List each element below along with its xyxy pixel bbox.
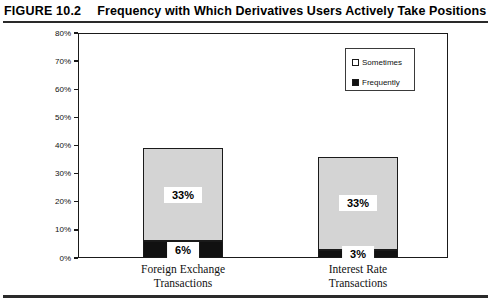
y-axis-tick: 40% xyxy=(0,140,78,152)
y-axis-tick: 20% xyxy=(0,196,78,208)
y-axis-tick: 50% xyxy=(0,111,78,123)
y-axis-tick: 10% xyxy=(0,224,78,236)
chart-area: 0%10%20%30%40%50%60%70%80% 33%6%33%3% So… xyxy=(0,24,491,292)
bar-segment-sometimes[interactable]: 33% xyxy=(318,157,398,250)
caption-divider-rule xyxy=(3,21,488,23)
figure-caption: FIGURE 10.2 Frequency with Which Derivat… xyxy=(4,2,487,19)
x-axis-category-label: Interest RateTransactions xyxy=(278,262,438,290)
y-axis-tick-label: 20% xyxy=(55,197,74,206)
bar-segment-sometimes[interactable]: 33% xyxy=(143,148,223,241)
y-axis-tick: 70% xyxy=(0,55,78,67)
y-axis-tick-label: 50% xyxy=(55,113,74,122)
y-axis-tick-label: 0% xyxy=(59,254,74,263)
y-axis-tick-label: 70% xyxy=(55,57,74,66)
y-axis-tick-label: 30% xyxy=(55,169,74,178)
bar-segment-frequently[interactable]: 3% xyxy=(318,250,398,258)
chart-legend: Sometimes Frequently xyxy=(345,48,415,91)
x-axis-category-label-line: Transactions xyxy=(278,276,438,290)
legend-item-frequently[interactable]: Frequently xyxy=(352,75,414,89)
legend-item-sometimes[interactable]: Sometimes xyxy=(352,55,414,69)
legend-label-sometimes: Sometimes xyxy=(362,58,402,67)
filled-square-icon xyxy=(352,79,359,86)
x-axis-category-label-line: Transactions xyxy=(103,276,263,290)
bar-group[interactable]: 33%3% xyxy=(318,157,398,258)
y-axis-tick: 60% xyxy=(0,83,78,95)
bar-group[interactable]: 33%6% xyxy=(143,148,223,258)
bar-value-label-frequently: 6% xyxy=(167,242,199,258)
figure-number: FIGURE 10.2 xyxy=(4,4,81,18)
figure-bottom-rule xyxy=(3,295,488,298)
figure-title: Frequency with Which Derivatives Users A… xyxy=(97,4,486,18)
y-axis-tick-label: 80% xyxy=(55,29,74,38)
hollow-square-icon xyxy=(352,59,359,66)
bar-segment-frequently[interactable]: 6% xyxy=(143,241,223,258)
legend-label-frequently: Frequently xyxy=(362,78,400,87)
y-axis-tick: 30% xyxy=(0,168,78,180)
bar-value-label-sometimes: 33% xyxy=(339,195,377,211)
y-axis-tick-label: 60% xyxy=(55,85,74,94)
y-axis-tick: 0% xyxy=(0,252,78,264)
x-axis-category-label: Foreign ExchangeTransactions xyxy=(103,262,263,290)
y-axis-tick-label: 40% xyxy=(55,141,74,150)
x-axis-category-label-line: Foreign Exchange xyxy=(103,262,263,276)
bar-value-label-frequently: 3% xyxy=(342,246,374,262)
x-axis-category-label-line: Interest Rate xyxy=(278,262,438,276)
y-axis-tick-label: 10% xyxy=(55,225,74,234)
bar-value-label-sometimes: 33% xyxy=(164,187,202,203)
y-axis-tick: 80% xyxy=(0,27,78,39)
